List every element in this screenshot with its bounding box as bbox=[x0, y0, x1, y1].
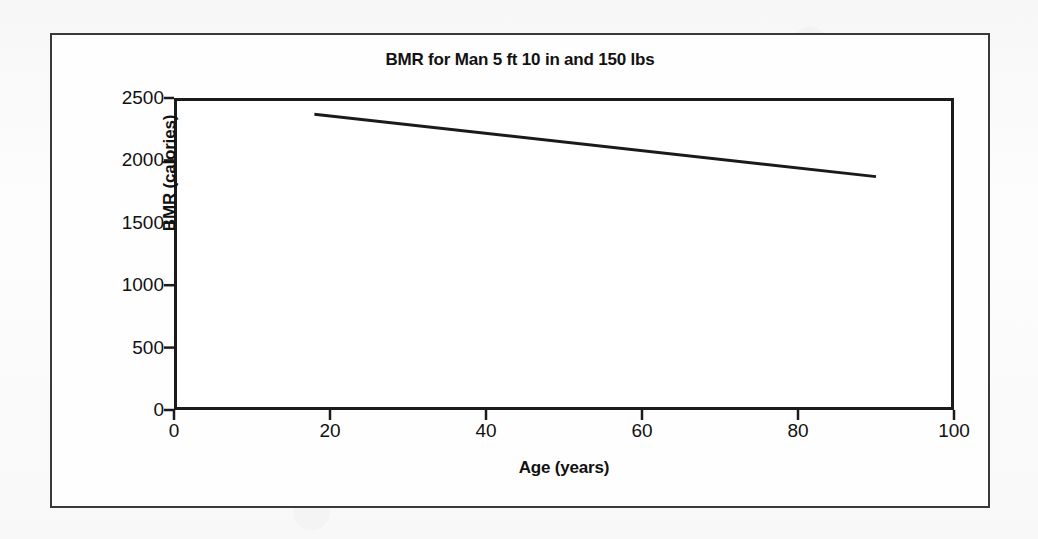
figure-frame: BMR for Man 5 ft 10 in and 150 lbs 05001… bbox=[50, 33, 990, 508]
x-tick-label: 100 bbox=[938, 420, 970, 442]
x-axis-tick-labels: 020406080100 bbox=[174, 420, 954, 448]
x-tick-label: 60 bbox=[631, 420, 652, 442]
figure-inner: BMR for Man 5 ft 10 in and 150 lbs 05001… bbox=[52, 35, 988, 506]
chart-title: BMR for Man 5 ft 10 in and 150 lbs bbox=[52, 50, 988, 70]
data-line-bmr bbox=[314, 114, 876, 176]
plot-area bbox=[174, 98, 954, 410]
plot-svg bbox=[174, 98, 954, 410]
y-axis-title: BMR (calories) bbox=[158, 17, 182, 329]
y-tick-label: 0 bbox=[153, 399, 164, 421]
x-tick-label: 40 bbox=[475, 420, 496, 442]
x-tick-label: 20 bbox=[319, 420, 340, 442]
series-lines bbox=[314, 114, 876, 176]
y-tick-label: 500 bbox=[132, 337, 164, 359]
x-tick-label: 0 bbox=[169, 420, 180, 442]
x-axis-title: Age (years) bbox=[174, 458, 954, 478]
x-tick-label: 80 bbox=[787, 420, 808, 442]
y-axis-title-wrap: BMR (calories) bbox=[76, 98, 100, 410]
x-axis-ticks bbox=[174, 410, 954, 420]
